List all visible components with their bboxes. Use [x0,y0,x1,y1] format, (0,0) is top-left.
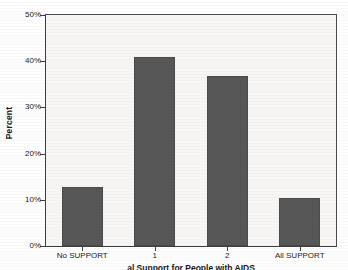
y-tick-mark [40,246,45,247]
y-tick-label: 0% [7,242,41,250]
y-tick-mark [40,154,45,155]
y-tick-mark [40,107,45,108]
bar-series [46,15,336,246]
bar [62,187,103,246]
y-tick-label: 30% [7,103,41,111]
x-tick-mark [155,247,156,251]
y-axis-title: Percent [4,88,14,158]
bar [134,57,175,246]
y-tick-label: 40% [7,57,41,65]
bar [207,76,248,246]
bar-chart-figure: Percent 0%10%20%30%40%50% No SUPPORT12Al… [0,0,348,270]
x-tick-mark [300,247,301,251]
y-tick-label: 20% [7,150,41,158]
x-tick-mark [227,247,228,251]
y-tick-mark [40,61,45,62]
y-tick-mark [40,200,45,201]
y-tick-label: 10% [7,196,41,204]
x-tick-mark [82,247,83,251]
y-tick-label: 50% [7,11,41,19]
y-tick-mark [40,15,45,16]
x-tick-label: All SUPPORT [255,251,345,260]
bar [279,198,320,246]
x-axis-title: al Support for People with AIDS [45,263,337,270]
